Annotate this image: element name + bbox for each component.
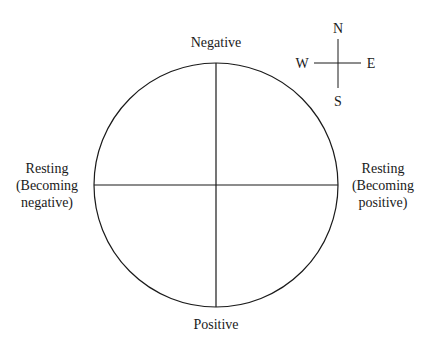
label-left: Resting (Becoming negative) bbox=[2, 160, 92, 211]
label-left-line2: (Becoming bbox=[2, 177, 92, 194]
label-left-line3: negative) bbox=[2, 194, 92, 211]
compass-north: N bbox=[328, 20, 348, 37]
label-right: Resting (Becoming positive) bbox=[338, 160, 426, 211]
label-right-line2: (Becoming bbox=[338, 177, 426, 194]
label-right-line3: positive) bbox=[338, 194, 426, 211]
compass-east: E bbox=[361, 55, 381, 72]
label-top: Negative bbox=[166, 34, 266, 51]
label-left-line1: Resting bbox=[2, 160, 92, 177]
compass-west: W bbox=[292, 55, 312, 72]
compass-south: S bbox=[328, 93, 348, 110]
compass-rose-icon bbox=[314, 39, 361, 88]
label-bottom: Positive bbox=[166, 316, 266, 333]
label-right-line1: Resting bbox=[338, 160, 426, 177]
